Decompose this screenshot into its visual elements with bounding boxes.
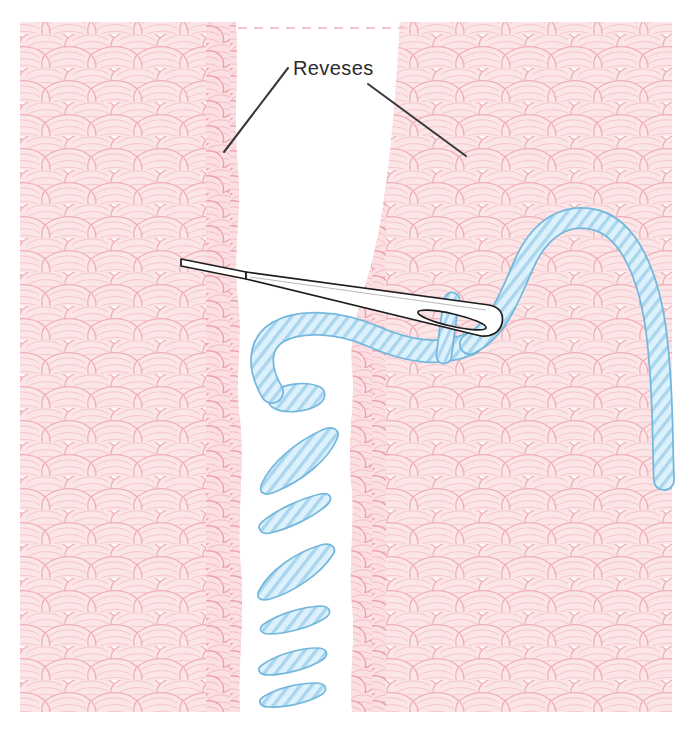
knitting-seam-illustration: Reveses — [0, 0, 699, 734]
annotation-label-reveses: Reveses — [293, 57, 374, 79]
left-knit-panel — [18, 18, 244, 718]
illustration-canvas: Reveses — [0, 0, 699, 734]
